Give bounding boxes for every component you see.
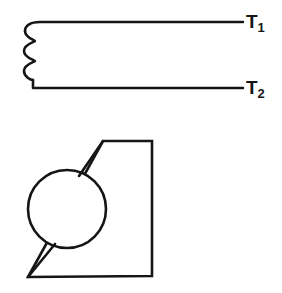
coil-bottom-lead <box>33 80 243 88</box>
coil-winding-symbol <box>24 22 243 88</box>
terminal-label-t2: T2 <box>246 78 265 100</box>
terminal-subscript-t1: 1 <box>258 20 265 35</box>
terminal-letter-t2: T <box>246 77 258 98</box>
coil-loops <box>24 31 35 80</box>
technical-figure: T1 T2 <box>0 0 282 293</box>
coil-top-lead <box>25 22 243 31</box>
terminal-label-t1: T1 <box>246 12 265 34</box>
hole-circle <box>28 170 106 248</box>
figure-canvas <box>0 0 282 293</box>
terminal-letter-t1: T <box>246 11 258 32</box>
bracket-outline-with-hole <box>28 141 152 277</box>
terminal-subscript-t2: 2 <box>258 86 265 101</box>
